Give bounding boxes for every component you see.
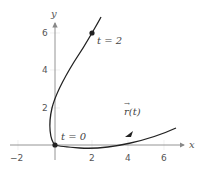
vector-arrow-icon: → (124, 100, 130, 108)
gridlines (18, 33, 164, 150)
y-tick-label-2: 2 (42, 103, 48, 113)
label-t0: t = 0 (61, 131, 87, 142)
label-t2: t = 2 (97, 35, 122, 46)
x-tick-label-6: 6 (161, 153, 167, 163)
y-tick-label-4: 4 (42, 65, 48, 75)
y-axis-label: y (50, 8, 57, 19)
point-t0 (52, 142, 57, 147)
parametric-curve-diagram: x y −2 2 4 6 2 4 6 t = 0 t = 2 r(t) → (0, 0, 202, 170)
x-tick-label-4: 4 (125, 153, 131, 163)
y-tick-label-6: 6 (42, 28, 48, 38)
direction-arrow-icon (125, 131, 133, 137)
x-tick-label-neg2: −2 (10, 153, 23, 163)
point-t2 (89, 30, 94, 35)
x-tick-label-2: 2 (89, 153, 95, 163)
x-axis-label: x (189, 139, 195, 150)
